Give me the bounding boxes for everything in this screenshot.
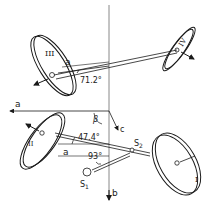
disc-I-center <box>175 161 179 165</box>
disc-III-label: III <box>45 49 54 58</box>
axis-a-left-label: a <box>15 99 21 109</box>
axis-c-label: c <box>120 125 124 134</box>
angle-II-I-label: 47.4° <box>78 133 100 142</box>
disc-IV-normal-arrow-icon <box>181 52 194 59</box>
disc-III-normal-arrow-icon <box>34 79 48 85</box>
s2-point <box>130 148 134 152</box>
angle-s1-label: 93° <box>88 152 102 161</box>
axis-b-label: b <box>112 188 118 198</box>
disc-I-label: I <box>195 175 198 184</box>
axis-a-top-label: a <box>65 57 71 67</box>
disc-I: I <box>143 125 210 202</box>
axis-b: b <box>109 5 118 200</box>
angle-beta-c: β c <box>92 111 124 134</box>
disc-II-center <box>40 131 44 135</box>
disc-IV: IV <box>159 24 200 74</box>
axis-a-left: a <box>10 99 109 111</box>
disc-II: II <box>13 107 72 175</box>
disc-III-center <box>50 73 55 78</box>
disc-geometry-diagram: b III IV a 71.2° a β c <box>0 0 219 207</box>
s1-label: S1 <box>80 180 89 190</box>
s1-s2: S1 S2 <box>80 139 143 190</box>
s2-label: S2 <box>134 139 143 149</box>
axis-a-bottom-label: a <box>63 147 69 157</box>
angle-beta-label: β <box>92 115 98 124</box>
disc-II-label: II <box>28 140 34 148</box>
s1-point <box>83 168 91 176</box>
connection-II-I: 47.4° a 93° <box>55 133 150 164</box>
angle-III-IV-label: 71.2° <box>80 76 102 85</box>
